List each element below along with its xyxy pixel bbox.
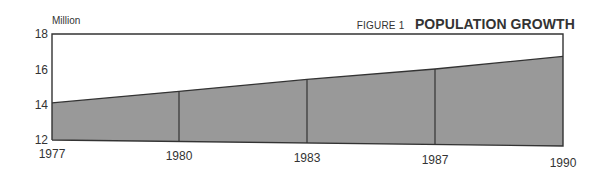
plot-area [0,0,601,175]
y-tick-label: 18 [18,27,48,41]
x-tick-label: 1987 [415,153,455,167]
x-tick-label: 1977 [32,147,72,161]
x-tick-label: 1990 [543,156,583,170]
y-tick-label: 14 [18,98,48,112]
y-tick-label: 16 [18,63,48,77]
population-growth-chart: Million FIGURE 1 POPULATION GROWTH 18 16… [0,0,601,175]
x-tick-label: 1980 [159,149,199,163]
x-tick-label: 1983 [287,151,327,165]
y-tick-label: 12 [18,133,48,147]
